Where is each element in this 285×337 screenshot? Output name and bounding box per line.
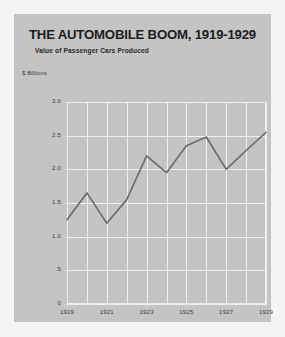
y-axis-tick-mark bbox=[64, 237, 67, 238]
y-axis-tick-label: 2.5 bbox=[31, 132, 61, 138]
y-axis-tick-mark bbox=[64, 169, 67, 170]
y-axis-tick-mark bbox=[64, 203, 67, 204]
x-axis-tick-label: 1919 bbox=[50, 309, 84, 315]
y-axis-tick-label: 2.0 bbox=[31, 165, 61, 171]
chart-page: THE AUTOMOBILE BOOM, 1919-1929 Value of … bbox=[0, 0, 285, 337]
y-axis-tick-label: 1.5 bbox=[31, 199, 61, 205]
chart-card: THE AUTOMOBILE BOOM, 1919-1929 Value of … bbox=[14, 14, 271, 322]
y-axis-tick-label: 0 bbox=[31, 300, 61, 306]
x-axis-tick-mark bbox=[266, 304, 267, 307]
x-axis-tick-label: 1929 bbox=[249, 309, 283, 315]
y-axis-tick-mark bbox=[64, 102, 67, 103]
x-axis-tick-label: 1925 bbox=[169, 309, 203, 315]
data-line-svg bbox=[67, 102, 266, 304]
x-axis-tick-label: 1923 bbox=[130, 309, 164, 315]
y-axis-tick-label: 3.0 bbox=[31, 98, 61, 104]
gridline-horizontal bbox=[67, 304, 266, 305]
x-axis-tick-mark bbox=[67, 304, 68, 307]
x-axis-tick-mark bbox=[226, 304, 227, 307]
x-axis-tick-label: 1921 bbox=[90, 309, 124, 315]
plot-area bbox=[67, 102, 266, 304]
data-line bbox=[67, 132, 266, 223]
x-axis-tick-mark bbox=[147, 304, 148, 307]
x-axis-tick-mark bbox=[107, 304, 108, 307]
y-axis-tick-label: 1.0 bbox=[31, 233, 61, 239]
chart-title: THE AUTOMOBILE BOOM, 1919-1929 bbox=[14, 27, 271, 42]
x-axis-tick-mark bbox=[186, 304, 187, 307]
y-axis-tick-mark bbox=[64, 270, 67, 271]
y-axis-tick-mark bbox=[64, 136, 67, 137]
y-axis-tick-label: .5 bbox=[31, 266, 61, 272]
y-axis-unit-label: $ Billions bbox=[22, 70, 47, 76]
chart-subtitle: Value of Passenger Cars Produced bbox=[35, 47, 149, 54]
x-axis-tick-label: 1927 bbox=[209, 309, 243, 315]
